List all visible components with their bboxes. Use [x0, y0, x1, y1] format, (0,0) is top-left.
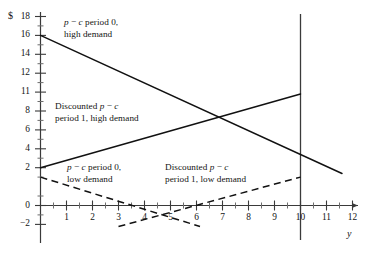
y-tick-label-minus2: −2	[4, 218, 30, 228]
annotation-period0-high-line2: high demand	[64, 28, 118, 40]
x-tick-label-11: 11	[317, 212, 337, 222]
y-tick-label-0: 0	[8, 200, 30, 210]
y-tick-label-2: 2	[8, 162, 30, 172]
symbol-c: c	[114, 101, 118, 111]
x-tick-label-5: 5	[161, 212, 181, 222]
y-tick-label-11: 11	[8, 86, 30, 96]
annotation-period1-low-line1: Discounted p − c	[165, 161, 246, 173]
annotation-period0-high-line1: p − c period 0,	[64, 16, 118, 28]
annotation-period0-low-line1: p − c period 0,	[67, 161, 121, 173]
y-tick-label-6: 6	[8, 124, 30, 134]
annotation-tail: period 0,	[83, 17, 118, 27]
annotation-period1-high-line2: period 1, high demand	[55, 112, 139, 124]
x-tick-label-1: 1	[57, 212, 77, 222]
y-tick-label-12: 12	[8, 67, 30, 77]
x-tick-label-4: 4	[135, 212, 155, 222]
x-axis-label: y	[347, 228, 351, 239]
x-tick-label-7: 7	[213, 212, 233, 222]
annotation-head: Discounted	[55, 101, 100, 111]
x-tick-label-9: 9	[265, 212, 285, 222]
annotation-period1-high: Discounted p − c period 1, high demand	[55, 100, 139, 124]
annotation-tail: period 0,	[86, 162, 121, 172]
x-tick-label-12: 12	[343, 212, 363, 222]
annotation-head: Discounted	[165, 162, 210, 172]
chart-figure: $ y 18 16 14 12 11 8 6 4 2 0 −2 1 2 3 4 …	[0, 0, 367, 256]
x-tick-label-8: 8	[239, 212, 259, 222]
symbol-minus: −	[214, 162, 224, 172]
x-tick-label-6: 6	[187, 212, 207, 222]
x-tick-label-10: 10	[291, 212, 311, 222]
x-tick-label-2: 2	[83, 212, 103, 222]
chart-plot-area	[0, 0, 367, 256]
symbol-minus: −	[104, 101, 114, 111]
y-tick-label-18: 18	[8, 11, 30, 21]
symbol-c: c	[224, 162, 228, 172]
symbol-minus: −	[72, 162, 82, 172]
annotation-period1-low: Discounted p − c period 1, low demand	[165, 161, 246, 185]
symbol-minus: −	[69, 17, 79, 27]
y-tick-label-4: 4	[8, 143, 30, 153]
y-tick-label-14: 14	[8, 48, 30, 58]
annotation-period0-low-line2: low demand	[67, 173, 121, 185]
annotation-period0-high: p − c period 0, high demand	[64, 16, 118, 40]
y-tick-label-8: 8	[8, 105, 30, 115]
annotation-period1-high-line1: Discounted p − c	[55, 100, 139, 112]
annotation-period0-low: p − c period 0, low demand	[67, 161, 121, 185]
y-tick-label-16: 16	[8, 29, 30, 39]
x-tick-label-3: 3	[109, 212, 129, 222]
annotation-period1-low-line2: period 1, low demand	[165, 173, 246, 185]
